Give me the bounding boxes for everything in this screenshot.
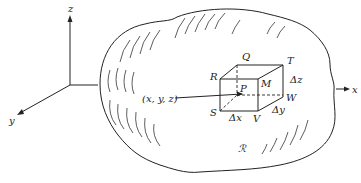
vertex-s-label: S — [210, 107, 217, 118]
volume-element-diagram: z y x ℛ Q T R M P W S V ( — [0, 0, 361, 183]
region-label: ℛ — [238, 143, 247, 154]
x-axis-label: x — [352, 84, 358, 95]
region-shading — [108, 13, 308, 154]
point-coordinates-label: (x, y, z) — [142, 93, 178, 104]
vertex-t-label: T — [287, 55, 295, 66]
y-axis-label: y — [8, 115, 15, 126]
vertex-q-label: Q — [242, 51, 250, 62]
vertex-m-label: M — [260, 78, 272, 89]
z-axis-label: z — [67, 3, 74, 14]
coordinate-axes — [17, 15, 350, 115]
region-outline — [100, 9, 335, 172]
vertex-p-label: P — [239, 83, 247, 94]
delta-y-label: Δy — [271, 104, 285, 115]
delta-x-label: Δx — [228, 112, 242, 123]
vertex-r-label: R — [209, 71, 218, 82]
vertex-v-label: V — [253, 113, 262, 124]
delta-z-label: Δz — [289, 74, 303, 85]
vertex-w-label: W — [286, 92, 297, 103]
